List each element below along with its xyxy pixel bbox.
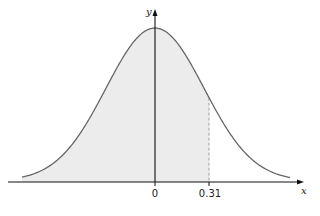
y-axis-label: y — [145, 6, 152, 17]
y-axis-arrow-icon — [153, 9, 158, 16]
tick-label-value: 0.31 — [199, 188, 221, 199]
tick-label-zero: 0 — [152, 188, 158, 199]
shaded-area — [22, 28, 209, 182]
x-axis-arrow-icon — [297, 180, 304, 185]
x-axis-label: x — [301, 185, 307, 196]
normal-distribution-chart: y x 0 0.31 — [0, 0, 320, 216]
